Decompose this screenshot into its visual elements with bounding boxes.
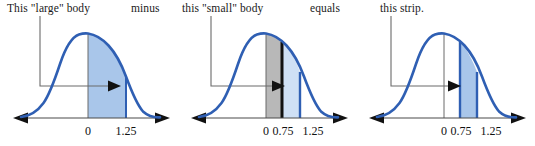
tick-label-125: 1.25	[110, 125, 142, 138]
panel-large-body: This "large" body 0 1.25	[0, 0, 178, 146]
shaded-strip-region	[460, 42, 477, 118]
tick-label-0: 0	[78, 125, 98, 138]
normal-curve	[377, 33, 516, 117]
shaded-body-region	[266, 34, 281, 119]
panel-large-body-caption: This "large" body	[7, 1, 90, 15]
shaded-body-region	[88, 34, 126, 119]
tick-label-075: 0.75	[267, 125, 299, 138]
connector-equals: equals	[310, 1, 340, 15]
normal-curve-figure: This "large" body 0 1.25 minus	[0, 0, 535, 146]
tick-label-125: 1.25	[297, 125, 329, 138]
tick-label-125: 1.25	[475, 125, 507, 138]
panel-strip: this strip. 0 0.75 1.25	[356, 0, 534, 146]
panel-strip-caption: this strip.	[380, 1, 424, 15]
panel-small-body: this "small" body 0 0.75 1.25	[178, 0, 356, 146]
panel-small-body-caption: this "small" body	[182, 1, 263, 15]
connector-minus: minus	[131, 1, 160, 15]
tick-label-075: 0.75	[445, 125, 477, 138]
